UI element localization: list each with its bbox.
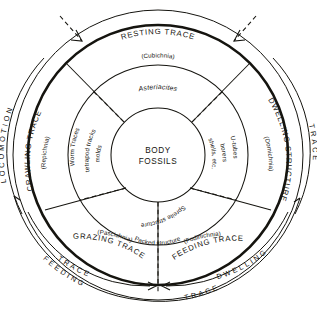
arc-locomotion [7, 58, 44, 214]
arrow-top-right-icon [234, 16, 256, 41]
label-shells-etc: shells, etc. [207, 137, 218, 170]
arrow-top-left-icon [60, 16, 82, 41]
trace-fossil-ethology-diagram: RESTING TRACE CRAWLING TRACE DWELLING ST… [0, 0, 317, 312]
label-borers: borers [219, 143, 229, 163]
inner-ring-labels: Worm Traces tetrapod tracks molds borers… [68, 126, 240, 246]
label-domichnia: (Domichnia) [263, 135, 275, 171]
label-spreite-structure: Spreite structure [140, 205, 187, 230]
label-asteriacites: Asteriacites [137, 83, 179, 92]
label-cubichnia: (Cubichnia) [141, 51, 176, 59]
label-u-tubes: U-tubes [229, 135, 239, 159]
diagram-canvas: RESTING TRACE CRAWLING TRACE DWELLING ST… [0, 0, 317, 312]
label-crawling-trace: CRAWLING TRACE [23, 108, 44, 192]
label-resting-trace: RESTING TRACE [120, 27, 196, 42]
centre-label: BODY FOSSILS [139, 146, 177, 166]
label-repichnia: (Repichnia) [39, 135, 50, 169]
centre-line-2: FOSSILS [139, 157, 177, 166]
arc-trace-right [273, 58, 310, 214]
label-worm-traces: Worm Traces [68, 126, 81, 166]
label-trace-right: TRACE [307, 123, 317, 163]
label-molds: molds [93, 144, 102, 163]
centre-line-1: BODY [145, 146, 170, 155]
